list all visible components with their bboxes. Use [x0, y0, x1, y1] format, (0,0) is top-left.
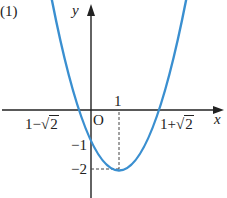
sqrt-icon: √ — [41, 116, 49, 132]
root-left-prefix: 1− — [25, 116, 41, 132]
sqrt-icon: √ — [176, 116, 184, 132]
root-right-radicand: 2 — [184, 115, 194, 132]
y-axis-arrow-icon — [87, 4, 95, 16]
problem-label: (1) — [0, 4, 18, 19]
tick-label-one: 1 — [114, 94, 122, 109]
root-left-radicand: 2 — [49, 115, 59, 132]
y-axis-label: y — [72, 3, 79, 18]
root-right-prefix: 1+ — [160, 116, 176, 132]
tick-label-minus-two: −2 — [71, 162, 87, 177]
tick-label-minus-one: −1 — [71, 138, 87, 153]
origin-label: O — [93, 113, 104, 128]
x-axis-label: x — [214, 112, 221, 127]
tick-label-left-root: 1−√2 — [25, 117, 59, 132]
tick-label-right-root: 1+√2 — [160, 117, 194, 132]
